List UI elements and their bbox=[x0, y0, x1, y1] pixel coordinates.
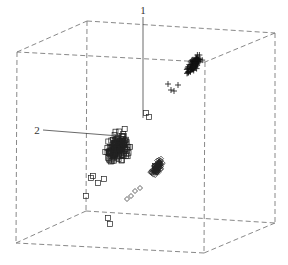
box-edge bbox=[204, 62, 205, 253]
square-marker bbox=[122, 126, 127, 131]
plus-marker bbox=[165, 81, 171, 87]
square-marker bbox=[96, 181, 101, 186]
plus-marker bbox=[175, 82, 181, 88]
box-edge bbox=[86, 211, 275, 223]
annotation-label-1: 1 bbox=[140, 4, 146, 16]
bounding-box bbox=[16, 21, 275, 253]
plus-marker bbox=[168, 87, 174, 93]
square-marker bbox=[108, 222, 113, 227]
box-edge bbox=[17, 21, 87, 52]
box-edge bbox=[16, 243, 204, 253]
annotation-leader-line bbox=[43, 130, 119, 136]
plot-area: 12 bbox=[0, 0, 288, 265]
annotation-label-2: 2 bbox=[34, 124, 40, 136]
data-points bbox=[84, 52, 206, 227]
box-edge bbox=[87, 21, 275, 33]
box-edge bbox=[205, 33, 275, 62]
square-marker bbox=[102, 177, 107, 182]
diamond-marker bbox=[129, 194, 134, 199]
scatter-3d-chart: 12 bbox=[0, 0, 288, 265]
plus-marker bbox=[171, 88, 177, 94]
box-edge bbox=[16, 52, 17, 243]
diamond-marker bbox=[133, 189, 138, 194]
diamond-marker bbox=[138, 186, 143, 191]
diamond-marker bbox=[125, 197, 130, 202]
square-marker bbox=[106, 216, 111, 221]
square-marker bbox=[91, 174, 96, 179]
box-edge bbox=[86, 21, 87, 211]
box-edge bbox=[17, 52, 205, 62]
box-edge bbox=[204, 223, 275, 253]
square-marker bbox=[89, 176, 94, 181]
box-edge bbox=[16, 211, 86, 243]
